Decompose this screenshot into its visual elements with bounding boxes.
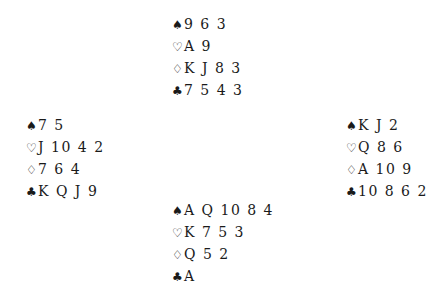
card-list: A (184, 268, 196, 284)
card-list: K 7 5 3 (184, 224, 245, 240)
north-diamonds: ♢K J 8 3 (172, 57, 243, 79)
card-list: A 9 (184, 38, 212, 54)
card-list: J 10 4 2 (38, 139, 105, 155)
heart-icon: ♡ (26, 137, 38, 159)
diamond-icon: ♢ (172, 58, 184, 80)
card-list: K J 2 (358, 117, 399, 133)
club-icon: ♣ (172, 80, 184, 102)
heart-icon: ♡ (172, 222, 184, 244)
north-spades: ♠9 6 3 (172, 13, 243, 35)
west-hand: ♠7 5 ♡J 10 4 2 ♢7 6 4 ♣K Q J 9 (26, 114, 105, 202)
card-list: 10 8 6 2 (358, 183, 428, 199)
card-list: A 10 9 (358, 161, 413, 177)
diamond-icon: ♢ (26, 159, 38, 181)
south-clubs: ♣A (172, 265, 274, 287)
west-spades: ♠7 5 (26, 114, 105, 136)
card-list: 7 5 (38, 117, 65, 133)
north-hand: ♠9 6 3 ♡A 9 ♢K J 8 3 ♣7 5 4 3 (172, 13, 243, 101)
club-icon: ♣ (346, 181, 358, 203)
club-icon: ♣ (26, 181, 38, 203)
card-list: 9 6 3 (184, 16, 227, 32)
east-clubs: ♣10 8 6 2 (346, 180, 428, 202)
club-icon: ♣ (172, 266, 184, 288)
card-list: Q 8 6 (358, 139, 404, 155)
card-list: 7 5 4 3 (184, 82, 243, 98)
south-hand: ♠A Q 10 8 4 ♡K 7 5 3 ♢Q 5 2 ♣A (172, 199, 274, 287)
south-diamonds: ♢Q 5 2 (172, 243, 274, 265)
card-list: K Q J 9 (38, 183, 98, 199)
north-hearts: ♡A 9 (172, 35, 243, 57)
spade-icon: ♠ (172, 200, 184, 222)
east-hand: ♠K J 2 ♡Q 8 6 ♢A 10 9 ♣10 8 6 2 (346, 114, 428, 202)
heart-icon: ♡ (172, 36, 184, 58)
south-spades: ♠A Q 10 8 4 (172, 199, 274, 221)
card-list: 7 6 4 (38, 161, 81, 177)
card-list: A Q 10 8 4 (184, 202, 274, 218)
card-list: Q 5 2 (184, 246, 230, 262)
south-hearts: ♡K 7 5 3 (172, 221, 274, 243)
spade-icon: ♠ (346, 115, 358, 137)
west-clubs: ♣K Q J 9 (26, 180, 105, 202)
north-clubs: ♣7 5 4 3 (172, 79, 243, 101)
west-diamonds: ♢7 6 4 (26, 158, 105, 180)
east-hearts: ♡Q 8 6 (346, 136, 428, 158)
east-spades: ♠K J 2 (346, 114, 428, 136)
diamond-icon: ♢ (172, 244, 184, 266)
spade-icon: ♠ (26, 115, 38, 137)
east-diamonds: ♢A 10 9 (346, 158, 428, 180)
card-list: K J 8 3 (184, 60, 242, 76)
diamond-icon: ♢ (346, 159, 358, 181)
spade-icon: ♠ (172, 14, 184, 36)
west-hearts: ♡J 10 4 2 (26, 136, 105, 158)
heart-icon: ♡ (346, 137, 358, 159)
